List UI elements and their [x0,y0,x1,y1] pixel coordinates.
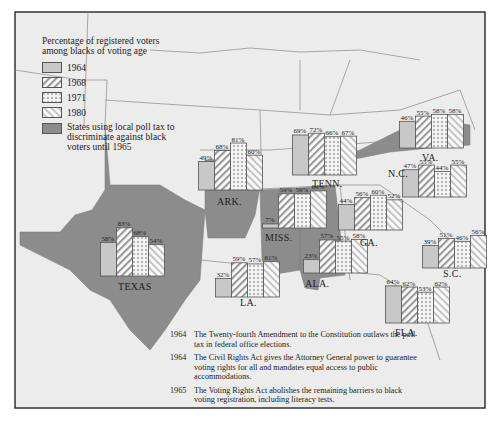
bar-1971 [455,241,471,268]
bar-value-label: 56% [356,190,369,198]
bar-value-label: 58% [102,235,115,243]
note-text: The Voting Rights Act abolishes the rema… [194,386,420,405]
legend-item-1968: 1968 [42,75,187,90]
bar-value-label: 68% [216,143,229,151]
bar-1980 [311,191,327,228]
bar-value-label: 64% [387,278,400,286]
bar-1964 [101,242,117,276]
bar-1971 [325,137,341,175]
bar-1971 [435,171,451,197]
bar-value-label: 59% [280,186,293,194]
state-label: N.C. [388,168,408,179]
legend-item-1964: 1964 [42,60,187,75]
legend-item-1980: 1980 [42,105,187,120]
bar-value-label: 52% [388,192,401,200]
bar-value-label: 49% [200,154,213,162]
bar-1980 [247,155,263,190]
bar-value-label: 69% [294,127,307,135]
bar-1964 [199,162,215,190]
note-year: 1964 [170,330,194,349]
bar-value-label: 62% [403,280,416,288]
bar-1968 [320,240,336,273]
legend-title-line2: among blacks of voting age [42,46,187,56]
state-label: GA. [360,237,378,248]
bar-1964 [216,278,232,297]
bar-1968 [232,263,248,297]
bar-1971 [231,143,247,190]
note-item: 1964 The Twenty-fourth Amendment to the … [170,330,420,349]
note-item: 1964 The Civil Rights Act gives the Atto… [170,353,420,382]
bar-value-label: 53% [419,285,432,293]
note-year: 1965 [170,386,194,405]
bar-1968 [355,198,371,230]
state-label: FLA. [395,327,418,338]
bar-1964 [263,224,279,228]
legend-label: States using local poll tax to discrimin… [67,122,187,152]
bar-value-label: 62% [435,280,448,288]
note-text: The Twenty-fourth Amendment to the Const… [194,330,420,349]
bar-1968 [419,165,435,197]
bar-1971 [418,292,434,323]
state-label: TENN. [312,178,343,189]
legend-swatch-1968 [42,77,62,88]
legend-swatch-poll-tax [42,123,62,134]
bar-1964 [304,260,320,273]
bar-value-label: 66% [326,129,339,137]
bar-value-label: 59% [233,255,246,263]
state-label: S.C. [443,268,461,279]
bar-1980 [471,236,487,268]
legend-swatch-1971 [42,92,62,103]
state-label: LA. [240,297,257,308]
bar-1968 [439,238,455,268]
bar-value-label: 55% [452,158,465,166]
legend-swatch-1980 [42,107,62,118]
bar-value-label: 56% [472,228,485,236]
bar-1980 [434,287,450,323]
state-label: ARK. [217,196,242,207]
bar-1971 [336,241,352,273]
bar-value-label: 68% [134,229,147,237]
bar-1964 [386,286,402,323]
bar-value-label: 23% [305,252,318,260]
bar-value-label: 57% [321,232,334,240]
legend-title: Percentage of registered voters among bl… [42,36,187,56]
legend-swatch-1964 [42,62,62,73]
bar-1980 [387,200,403,230]
bar-1968 [402,287,418,323]
bar-1980 [149,245,165,276]
legend-label: 1964 [67,63,86,73]
legend-title-line1: Percentage of registered voters [42,36,187,46]
bar-value-label: 39% [424,238,437,246]
bar-value-label: 59% [296,186,309,194]
bar-1964 [339,204,355,230]
bar-value-label: 61% [265,254,278,262]
legend: Percentage of registered voters among bl… [42,36,187,152]
bar-value-label: 44% [340,197,353,205]
state-chart-tenn: 69%72%66%67% [293,126,357,175]
state-label: TEXAS [118,281,152,292]
state-label: VA. [422,152,439,163]
map-figure: 58%83%68%54%49%68%81%60%69%72%66%67%46%5… [0,0,501,424]
bar-value-label: 55% [337,234,350,242]
bar-1980 [341,136,357,175]
bar-value-label: 54% [150,237,163,245]
bar-value-label: 44% [436,164,449,172]
legend-label: 1980 [67,108,86,118]
bar-1964 [423,245,439,268]
bar-value-label: 81% [232,136,245,144]
legend-label: 1968 [67,78,86,88]
bar-1968 [215,151,231,190]
bar-value-label: 60% [248,148,261,156]
bar-value-label: 51% [440,231,453,239]
bar-1980 [448,114,464,148]
note-item: 1965 The Voting Rights Act abolishes the… [170,386,420,405]
bar-1968 [416,116,432,148]
bar-1971 [133,237,149,276]
bar-1968 [279,194,295,228]
timeline-notes: 1964 The Twenty-fourth Amendment to the … [170,330,420,409]
bar-value-label: 46% [401,114,414,122]
state-label: ALA. [305,278,329,289]
bar-value-label: 32% [217,271,230,279]
bar-value-label: 7% [265,216,275,224]
state-label: MISS. [265,232,292,243]
